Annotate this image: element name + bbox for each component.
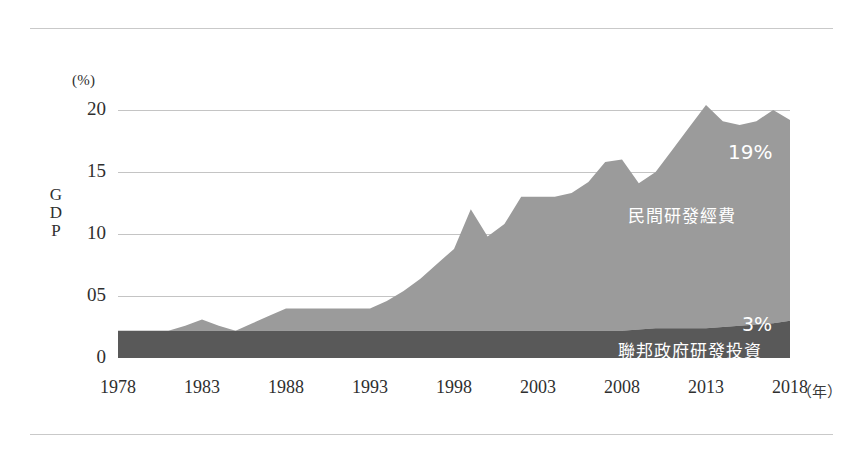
y-axis-title-char-2: P	[48, 222, 64, 240]
x-axis-unit: （年）	[797, 380, 842, 401]
y-axis-title-char-1: D	[48, 204, 64, 222]
y-axis-tick-label: 15	[72, 161, 106, 180]
x-axis-tick-label: 1983	[167, 377, 237, 398]
y-axis-title: G D P	[48, 186, 64, 240]
x-axis-tick-label: 2008	[587, 377, 657, 398]
x-axis-unit-text: 年	[812, 384, 827, 400]
y-axis-tick-label: 20	[72, 99, 106, 118]
y-axis-tick-label: 0	[72, 347, 106, 366]
x-axis-tick-label: 1993	[335, 377, 405, 398]
y-axis-title-char-0: G	[48, 186, 64, 204]
stacked-area-chart: (%) G D P 20 15 10 05 0 民間研發經費 19% 聯邦政府研…	[0, 0, 863, 449]
plot-area	[118, 110, 790, 358]
x-axis-tick-label: 1988	[251, 377, 321, 398]
y-axis-tick-label: 10	[72, 223, 106, 242]
y-axis-unit: (%)	[72, 72, 95, 89]
x-axis-tick-label: 2013	[671, 377, 741, 398]
x-axis-tick-label: 2003	[503, 377, 573, 398]
y-axis-tick-label: 05	[72, 285, 106, 304]
x-axis-tick-label: 1978	[83, 377, 153, 398]
area-private-rd	[118, 105, 790, 331]
area-series-svg	[118, 88, 790, 358]
x-axis-tick-label: 1998	[419, 377, 489, 398]
